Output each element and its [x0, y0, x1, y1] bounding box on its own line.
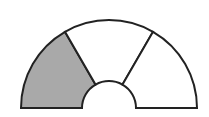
- sectors-group: [21, 20, 197, 108]
- half-annulus-diagram: [0, 0, 209, 117]
